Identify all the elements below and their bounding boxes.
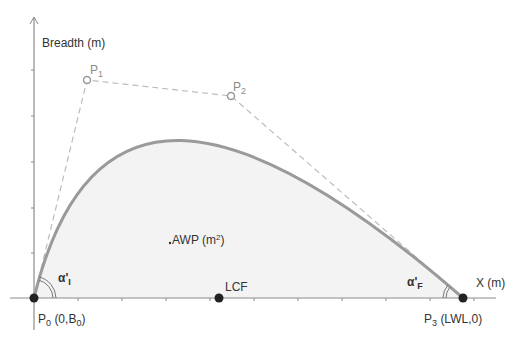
- point-lcf[interactable]: [215, 294, 224, 303]
- label-p2: P2: [233, 80, 246, 96]
- label-angle-initial: α'I: [58, 271, 71, 287]
- label-p3: P3 (LWL,0): [424, 312, 482, 328]
- point-p0[interactable]: [30, 294, 39, 303]
- label-p0: P0 (0,B0): [38, 312, 85, 328]
- y-axis-label: Breadth (m): [42, 36, 105, 50]
- diagram-canvas: Breadth (m) X (m) P1 P2 P0 (0,B0) P3 (LW…: [0, 0, 519, 346]
- label-lcf: LCF: [225, 280, 248, 294]
- waterplane-area-fill: [34, 140, 463, 298]
- label-angle-final: α'F: [407, 275, 423, 291]
- diagram-svg: [0, 0, 519, 346]
- label-p1: P1: [90, 63, 103, 79]
- point-p3[interactable]: [459, 294, 468, 303]
- label-awp: AWP (m2): [172, 233, 224, 247]
- awp-marker: [169, 242, 171, 244]
- x-axis-label: X (m): [476, 276, 505, 290]
